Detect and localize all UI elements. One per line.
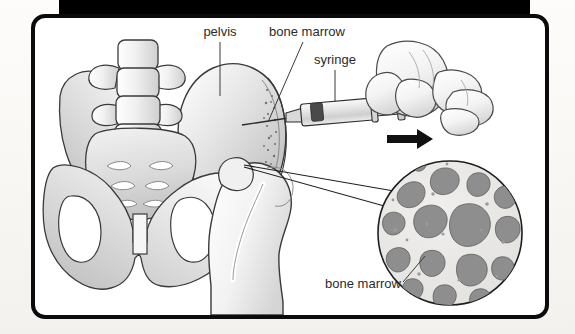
anatomy-illustration: pelvis bone marrow syringe bone marrow xyxy=(35,18,545,315)
transverse-process-left-1 xyxy=(89,65,119,89)
pubic-symphysis xyxy=(133,214,147,254)
vertebra-3 xyxy=(116,96,160,126)
figure-frame: pelvis bone marrow syringe bone marrow xyxy=(31,14,549,319)
illustration-page: pelvis bone marrow syringe bone marrow xyxy=(0,0,575,334)
label-bone-marrow-top: bone marrow xyxy=(269,24,345,39)
pelvis-anatomy xyxy=(43,40,293,315)
little-finger xyxy=(441,109,479,136)
label-syringe: syringe xyxy=(314,52,356,67)
vertebra-2 xyxy=(117,68,159,98)
vertebra-1 xyxy=(118,40,158,70)
direction-arrow xyxy=(387,129,433,149)
femoral-head xyxy=(219,158,254,191)
plunger-stopper xyxy=(310,103,324,122)
label-bone-marrow-bottom: bone marrow xyxy=(325,276,401,291)
label-pelvis: pelvis xyxy=(203,24,237,39)
transverse-process-left-2 xyxy=(92,104,119,125)
hand xyxy=(366,41,493,135)
